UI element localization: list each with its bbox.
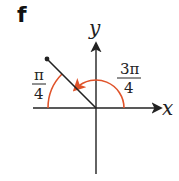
angle-large-denominator: 4 [124,79,134,97]
angle-small-denominator: 4 [34,85,44,103]
terminal-point [45,57,50,62]
x-axis-label: x [162,96,173,120]
angle-arc-pi-4 [48,74,62,108]
unit-angle-diagram: x y 3π 4 π 4 [0,0,179,181]
angle-small-numerator: π [34,66,44,84]
angle-large-numerator: 3π [120,60,140,78]
y-axis-label: y [88,16,101,40]
angle-arc-3pi-4 [76,80,124,108]
